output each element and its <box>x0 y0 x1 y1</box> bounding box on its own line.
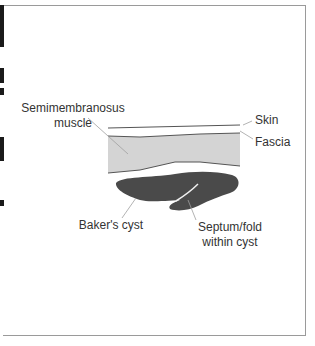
skin-leader <box>243 121 252 125</box>
cyst-leader <box>122 198 136 218</box>
septum-label: Septum/fold within cyst <box>190 220 270 250</box>
septum-label-line1: Septum/fold <box>190 220 270 235</box>
fascia-leader <box>240 131 253 139</box>
fascia-label: Fascia <box>255 135 290 150</box>
bakers-cyst-shape <box>116 172 239 211</box>
anatomy-diagram <box>0 0 315 346</box>
septum-label-line2: within cyst <box>190 235 270 250</box>
bakers-cyst-label: Baker's cyst <box>56 218 166 233</box>
muscle-label-line2: muscle <box>15 116 131 131</box>
muscle-label-line1: Semimembranosus <box>15 101 131 116</box>
muscle-label: Semimembranosus muscle <box>15 101 131 131</box>
muscle-band <box>108 133 240 173</box>
skin-label: Skin <box>255 113 278 128</box>
